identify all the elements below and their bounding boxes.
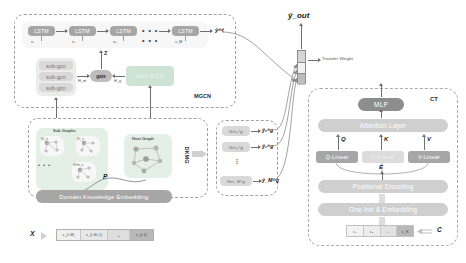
architecture-diagram: MGCN LSTM x₁ LSTM x₂ LSTM x₃ • • • • • •…: [0, 0, 466, 263]
v-arrow: [424, 137, 425, 150]
net-block-2: Net₂^g: [222, 142, 250, 152]
hg-arrow: [113, 76, 125, 77]
k-linear-block: K-Linear: [362, 151, 404, 163]
ct-title: CT: [430, 96, 438, 102]
v-linear-block: V-Linear: [408, 151, 450, 163]
q-linear-block: Q-Linear: [316, 151, 358, 163]
sub-graph-ellipsis: • • •: [38, 162, 51, 168]
sub-gcn-block-2: sub-gcn: [39, 72, 73, 81]
lstm-input-label-M: x_M: [175, 39, 182, 44]
q-arrow: [338, 137, 339, 150]
onehot-to-positional-arrow: [379, 194, 385, 203]
v-symbol: V: [427, 136, 431, 142]
net-block-M: Net_M^g: [220, 176, 252, 186]
net-vertical-ellipsis: ⋮: [234, 157, 240, 164]
sub-graph-label-1: G¹_s: [41, 137, 48, 141]
x-cell-2: x_{t-M+1}: [81, 230, 108, 240]
sub-gcn-block-1: sub-gcn: [39, 61, 73, 70]
hostgraph-to-hiergcn-arrow: [150, 88, 151, 118]
c-input-arrow: [417, 228, 433, 235]
domain-knowledge-embedding-block: Domain Knowledge Embedding: [36, 190, 172, 203]
lstm-input-tick-M: [185, 36, 186, 41]
lstm-input-label-2: x₂: [72, 39, 75, 44]
x-cell-1: x_{t-M}: [57, 230, 81, 240]
output-arrow: [301, 26, 302, 49]
transfer-weight-pointer: [308, 60, 320, 61]
token-cell-1: c₁: [347, 226, 364, 236]
gate-label: gate: [96, 74, 105, 79]
lstm-input-tick-1: [41, 36, 42, 41]
token-cell-2: c₂: [364, 226, 381, 236]
hg-label: H_g: [114, 78, 121, 83]
lstm-cell-1: LSTM: [28, 26, 55, 36]
net-to-transferweight-curves: [270, 56, 302, 186]
lstm-input-label-3: x₃: [113, 39, 117, 44]
x-input-arrow: [41, 232, 47, 240]
lstm-cell-M: LSTM: [172, 26, 199, 36]
sub-graph-label-2: G²_s: [77, 137, 84, 141]
x-input-label: X: [30, 230, 35, 237]
net-arrow-M: [253, 181, 261, 182]
dkmg-title: DKMG: [184, 146, 190, 163]
lstm-arrow-dots-M: [159, 31, 170, 32]
lstm-input-tick-2: [82, 36, 83, 41]
net-block-1: Net₁^g: [222, 126, 250, 136]
sub-graphs-title: Sub Graphs: [53, 128, 76, 133]
lstm-cell-2: LSTM: [69, 26, 96, 36]
hm-arrow: [77, 76, 89, 77]
x-cell-last: x_{t-1}: [130, 230, 153, 240]
x-sequence-row: x_{t-M} x_{t-M+1} → x_{t-1}: [56, 229, 154, 241]
subgraphs-to-subgcn-arrow: [56, 100, 57, 118]
gate-node: gate: [90, 70, 112, 82]
p-label: P: [103, 173, 107, 180]
k-symbol: K: [384, 136, 388, 142]
token-cell-last: c_K: [397, 226, 413, 236]
token-cell-ellipsis: ...: [381, 226, 398, 236]
mgcn-title: MGCN: [194, 93, 211, 99]
lstm-arrow-1-2: [56, 31, 67, 32]
attention-layer-block: Attention Layer: [318, 119, 448, 132]
lstm-input-tick-3: [123, 36, 124, 41]
x-cell-ellipsis: →: [108, 230, 130, 240]
onehot-embedding-block: One-hot & Embedding: [318, 203, 448, 216]
transfer-weight-label: Transfer Weight: [322, 56, 353, 61]
tokens-to-onehot-arrow: [379, 217, 385, 225]
lstm-ellipsis-upper: • • •: [142, 27, 158, 34]
c-arrow-icon: [417, 228, 433, 235]
c-label: C: [437, 226, 442, 233]
z-label: Z: [104, 50, 107, 56]
z-arrow: [101, 53, 102, 69]
positional-encoding-block: Positional Encoding: [318, 180, 448, 193]
net-arrow-1: [251, 131, 260, 132]
lstm-output-arrow: [200, 31, 212, 32]
attention-to-mlp-arrow: [381, 112, 382, 118]
net-arrow-2: [251, 147, 260, 148]
dkmg-to-net-fatarrow: [192, 150, 207, 158]
hier-gcn-block: Hier-GCN: [126, 66, 174, 86]
lstm-ellipsis-lower: • • •: [142, 37, 158, 44]
output-label: ŷ_out: [288, 11, 309, 20]
sub-graph-label-m: G^m_s: [73, 163, 83, 167]
lstm-cell-3: LSTM: [110, 26, 137, 36]
hm-label: H_m: [78, 78, 86, 83]
lstm-input-label-1: x₁: [31, 39, 34, 44]
sub-gcn-block-3: sub-gcn: [39, 83, 73, 92]
token-row: c₁ c₂ ... c_K: [346, 225, 414, 237]
q-symbol: Q: [341, 136, 346, 142]
k-arrow: [381, 137, 382, 150]
e-label: E: [379, 164, 383, 170]
lstm-arrow-2-3: [97, 31, 108, 32]
mlp-output-arrow: [381, 86, 382, 97]
